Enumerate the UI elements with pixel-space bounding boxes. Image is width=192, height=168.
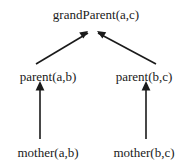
edge-line-parent-right (98, 33, 156, 64)
node-parent-left: parent(a,b) (0, 69, 96, 84)
edge-line-parent-left (36, 33, 88, 64)
node-grandparent: grandParent(a,c) (0, 7, 192, 22)
edge-mother-right-to-parent-right (142, 81, 151, 139)
node-parent-right: parent(b,c) (96, 69, 192, 84)
edge-parent-right-to-grandparent (97, 31, 156, 64)
node-mother-right: mother(b,c) (96, 145, 192, 160)
edge-parent-left-to-grandparent (36, 31, 88, 64)
inference-tree-diagram: grandParent(a,c) parent(a,b) parent(b,c)… (0, 0, 192, 168)
edge-mother-left-to-parent-left (36, 81, 45, 139)
diagram-edges-layer (0, 0, 192, 168)
node-mother-left: mother(a,b) (0, 145, 96, 160)
